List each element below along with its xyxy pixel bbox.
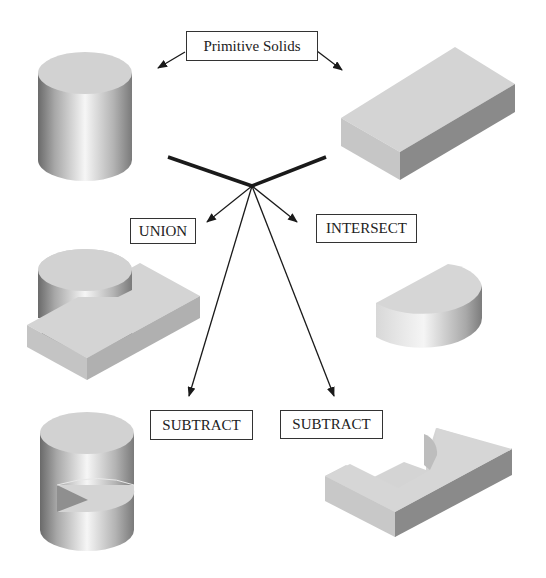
- intersect-label: INTERSECT: [316, 214, 417, 243]
- union-label: UNION: [130, 218, 196, 244]
- subtract-right-result: [325, 428, 512, 537]
- subtract-left-result: [40, 412, 134, 551]
- diagram-canvas: [0, 0, 546, 578]
- intersect-result: [376, 264, 482, 348]
- primitive-solids-label: Primitive Solids: [186, 31, 318, 61]
- primitive-cylinder: [38, 52, 132, 181]
- primitive-box: [341, 47, 515, 180]
- subtract-left-label: SUBTRACT: [150, 410, 253, 440]
- arrow-to-union: [207, 186, 252, 222]
- subtract-right-label: SUBTRACT: [280, 410, 383, 439]
- arrow-to-box: [317, 51, 342, 70]
- operation-junction: [168, 157, 326, 186]
- arrow-to-cylinder: [158, 52, 185, 68]
- arrow-to-subtract-left: [189, 186, 252, 396]
